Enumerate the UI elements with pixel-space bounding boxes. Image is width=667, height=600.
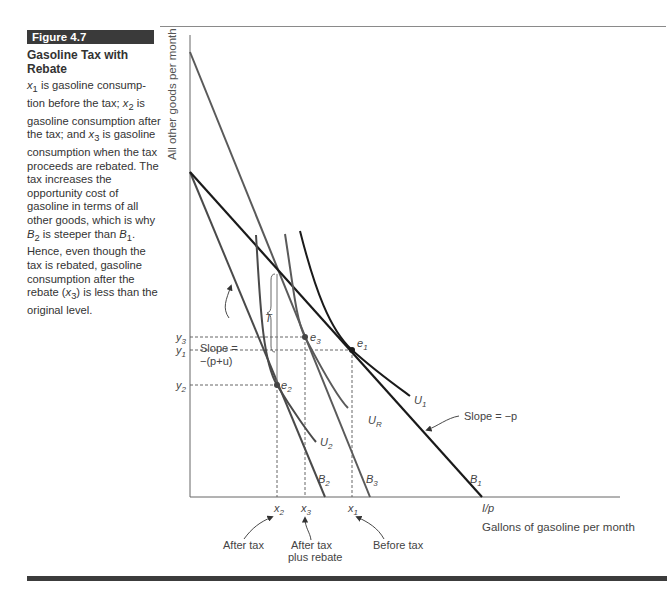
slope-p-arrow bbox=[427, 416, 459, 430]
x1-label: x1 bbox=[347, 502, 358, 517]
budget-line-b1 bbox=[190, 172, 482, 497]
e1-label: e1 bbox=[357, 337, 368, 352]
point-e2 bbox=[274, 382, 280, 388]
after-tax-arrow bbox=[244, 517, 272, 539]
x2-label: x2 bbox=[273, 502, 285, 517]
point-e1 bbox=[349, 347, 355, 353]
slope-pu-label-1: Slope = bbox=[200, 342, 238, 354]
indifference-curve-ur bbox=[285, 234, 348, 408]
y2-label: y2 bbox=[175, 379, 187, 394]
u1-label: U1 bbox=[414, 394, 426, 409]
after-tax-label: After tax bbox=[223, 539, 264, 551]
budget-line-b3 bbox=[190, 52, 370, 497]
x-axis-label: Gallons of gasoline per month bbox=[482, 521, 635, 533]
e3-label: e3 bbox=[310, 331, 321, 346]
x3-label: x3 bbox=[300, 502, 312, 517]
b3-label: B3 bbox=[366, 473, 378, 488]
point-e3 bbox=[302, 334, 308, 340]
slope-pu-arrow bbox=[225, 286, 231, 318]
tax-label-t: T bbox=[265, 312, 273, 324]
after-tax-rebate-label-2: plus rebate bbox=[288, 551, 342, 563]
y1-label: y1 bbox=[175, 344, 186, 359]
after-tax-rebate-label-1: After tax bbox=[291, 539, 332, 551]
after-tax-rebate-arrow bbox=[305, 518, 311, 540]
x-intercept-label: I/p bbox=[482, 502, 494, 514]
ur-label: UR bbox=[368, 414, 382, 429]
u2-label: U2 bbox=[320, 436, 333, 451]
before-tax-arrow bbox=[357, 517, 384, 539]
bottom-rule bbox=[27, 576, 667, 581]
e2-label: e2 bbox=[281, 379, 292, 394]
before-tax-label: Before tax bbox=[373, 539, 424, 551]
slope-pu-label-2: −(p+u) bbox=[200, 355, 232, 367]
slope-p-label: Slope = −p bbox=[464, 410, 517, 422]
